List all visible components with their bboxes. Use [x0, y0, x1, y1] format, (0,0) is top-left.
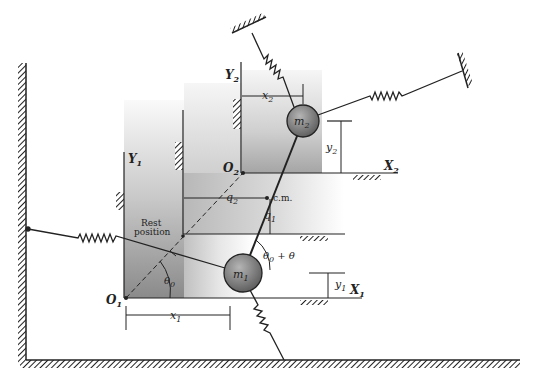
- ground: [20, 360, 520, 368]
- label-X1: X1: [349, 283, 365, 299]
- label-y2: y2: [325, 141, 337, 156]
- mass-m1: m1: [224, 254, 262, 292]
- hatch-y2: [233, 99, 241, 129]
- label-O1: O1: [106, 293, 122, 309]
- label-theta0-plus-theta: θ0 + θ: [263, 250, 295, 264]
- label-rest-line2: position: [134, 227, 171, 237]
- hatch-x1: [300, 300, 328, 305]
- label-x1: x1: [170, 309, 181, 324]
- hatch-mid: [175, 142, 183, 170]
- label-X2: X2: [383, 159, 399, 175]
- hatch-q1: [300, 236, 328, 241]
- diagram-canvas: m1 m2 O1 X1 Y1 O2 X2 Y2 x1 x2 y1: [0, 0, 535, 385]
- label-y1: y1: [334, 278, 346, 293]
- left-wall: [18, 63, 26, 365]
- label-Y2: Y2: [225, 68, 240, 84]
- top-anchor: [230, 13, 265, 34]
- label-center-of-mass: c.m.: [273, 193, 292, 203]
- mass-m2: m2: [287, 105, 319, 137]
- hatch-x2: [353, 175, 381, 180]
- hatch-y1: [116, 192, 124, 210]
